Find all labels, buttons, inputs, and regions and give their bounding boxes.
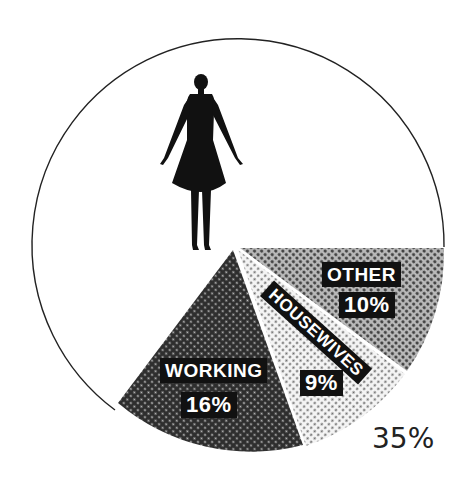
pie-chart: WORKING 16% HOUSEWIVES 9% OTHER 10% 35% <box>0 0 471 491</box>
total-percent-label: 35% <box>372 425 434 453</box>
woman-silhouette-icon <box>160 74 243 250</box>
other-label: OTHER <box>322 262 401 287</box>
housewives-percent: 9% <box>300 370 343 396</box>
working-label: WORKING <box>160 358 267 383</box>
working-percent: 16% <box>181 392 237 418</box>
other-percent: 10% <box>339 292 395 318</box>
